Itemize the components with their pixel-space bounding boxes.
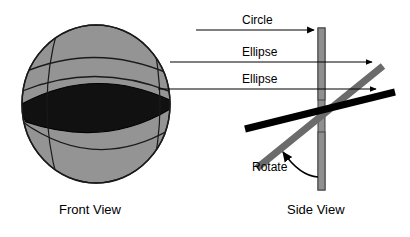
caption-front-view: Front View [59,203,121,216]
label-ellipse-upper: Ellipse [242,46,277,58]
vertical-plate-lower-overlay [318,132,325,190]
caption-side-view: Side View [287,203,345,216]
label-ellipse-equator: Ellipse [242,73,277,85]
rotate-arrow-group [283,152,318,177]
diagram-root: Circle Ellipse Ellipse Rotate Front View… [0,0,410,237]
label-circle: Circle [242,14,273,26]
front-view-sphere-group [18,25,178,183]
label-rotate: Rotate [252,161,287,173]
rotate-arrow [283,152,318,177]
